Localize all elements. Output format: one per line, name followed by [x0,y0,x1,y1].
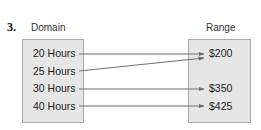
mapping-arrows [0,0,261,130]
arrow-25-to-200 [79,58,204,71]
